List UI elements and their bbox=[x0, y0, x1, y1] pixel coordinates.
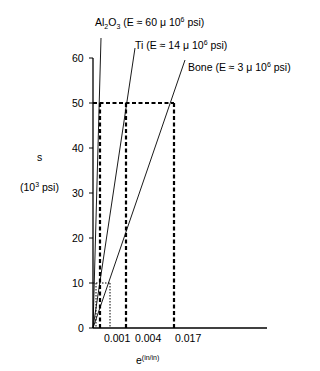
y-axis-units: (103 psi) bbox=[20, 182, 59, 193]
al2o3-label: Al2O3 (E ≈ 60 μ 106 psi) bbox=[95, 17, 204, 28]
y-tick-10: 10 bbox=[72, 278, 84, 289]
x-tick-0001: 0.001 bbox=[104, 333, 130, 344]
x-axis-label: e(in/in) bbox=[136, 355, 159, 366]
y-tick-30: 30 bbox=[72, 188, 84, 199]
y-tick-50: 50 bbox=[72, 98, 84, 109]
ti-label: Ti (E ≈ 14 μ 106 psi) bbox=[135, 40, 227, 51]
y-tick-20: 20 bbox=[72, 233, 84, 244]
material-lines bbox=[93, 38, 185, 328]
bone-line bbox=[93, 60, 185, 328]
x-tick-0004: 0.004 bbox=[135, 333, 161, 344]
y-tick-40: 40 bbox=[72, 143, 84, 154]
y-axis-label: s bbox=[37, 152, 42, 163]
dashed-reference-lines bbox=[93, 103, 174, 328]
x-tick-0017: 0.017 bbox=[175, 333, 201, 344]
bone-label: Bone (E ≈ 3 μ 106 psi) bbox=[188, 62, 291, 73]
y-tick-60: 60 bbox=[72, 53, 84, 64]
y-tick-0: 0 bbox=[78, 323, 84, 334]
